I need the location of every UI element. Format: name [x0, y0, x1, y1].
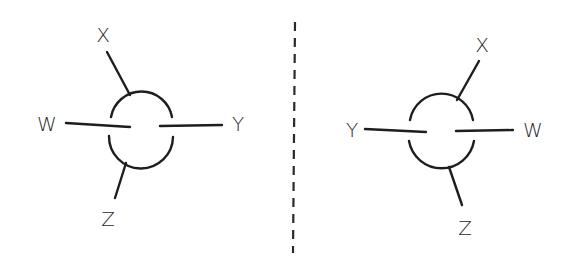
left-label-y: Y — [232, 112, 244, 136]
diagram-canvas: X W Y Z X Y W Z — [0, 0, 572, 273]
left-newman-projection: X W Y Z — [37, 23, 244, 231]
mirror-plane-dashed-line — [293, 22, 295, 253]
right-label-z: Z — [458, 216, 472, 240]
right-label-w: W — [523, 118, 543, 142]
right-label-x: X — [475, 33, 489, 57]
right-label-y: Y — [346, 118, 358, 142]
left-upper-arc — [111, 92, 172, 117]
left-bond-w — [66, 123, 130, 127]
left-bond-x — [107, 52, 130, 95]
right-bond-w — [456, 130, 513, 131]
right-bond-x — [457, 61, 479, 100]
right-bond-y — [365, 129, 426, 132]
left-bond-z — [115, 163, 126, 198]
right-newman-projection: X Y W Z — [346, 33, 543, 240]
left-bond-y — [160, 125, 222, 126]
left-label-z: Z — [101, 207, 115, 231]
right-upper-arc — [410, 94, 473, 120]
left-lower-arc — [109, 136, 173, 168]
right-bond-z — [449, 167, 462, 205]
left-label-w: W — [37, 112, 57, 136]
right-lower-arc — [409, 141, 474, 168]
left-label-x: X — [96, 23, 110, 47]
